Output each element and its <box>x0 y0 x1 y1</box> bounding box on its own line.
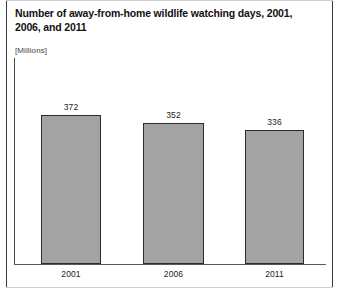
chart-figure: Number of away-from-home wildlife watchi… <box>0 0 339 288</box>
x-axis-tick-label-2006: 2006 <box>143 269 204 279</box>
bar-value-label-2011: 336 <box>245 117 304 127</box>
bar-value-label-2001: 372 <box>41 102 101 112</box>
x-axis-tick-label-2001: 2001 <box>41 269 101 279</box>
x-axis-tick-label-2011: 2011 <box>245 269 304 279</box>
bar-2006 <box>143 123 204 264</box>
plot-area: 372200135220063362011 <box>0 0 339 288</box>
bar-value-label-2006: 352 <box>143 110 204 120</box>
bar-2001 <box>41 115 101 264</box>
bar-2011 <box>245 130 304 264</box>
